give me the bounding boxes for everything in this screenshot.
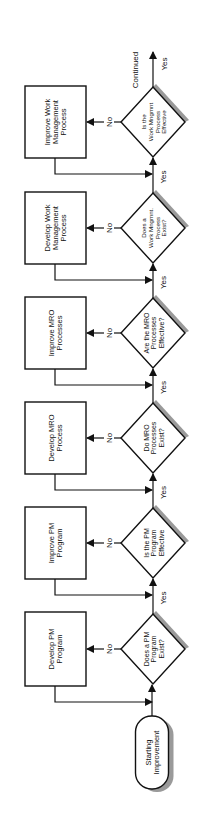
decision-label-line: Processes [150,316,157,349]
decision-label-line: Processes [150,421,157,454]
return-connector [55,264,152,280]
decision-label-line: Effective [158,530,165,557]
no-label: No [105,327,114,338]
continued-label: Continued [131,52,140,88]
start-label-line: Improvement [152,730,161,775]
action-label: Develop PMProgram [47,629,64,670]
return-connector [55,579,152,595]
yes-label: Yes [159,276,168,289]
yes-label: Yes [159,486,168,499]
flowchart: StartingImprovementDoes a PMProgramExist… [0,0,204,832]
no-label: No [105,432,114,443]
decision-label-line: Effective? [158,318,165,349]
no-label: No [105,537,114,548]
no-label: No [105,116,114,127]
action-label-line: Processes [55,315,64,350]
action-label-line: Program [55,635,64,664]
action-label-line: Process [59,214,68,241]
yes-label: Yes [159,591,168,604]
action-label-line: Process [55,424,64,451]
decision-label-line: Effective [160,110,167,134]
yes-label: Yes [159,381,168,394]
action-label-line: Program [55,529,64,558]
decision-label-line: Exist? [160,219,167,236]
return-connector [55,474,152,490]
decision-label-line: Are the MRO [143,312,150,353]
yes-label: Yes [160,57,169,70]
action-label: Improve MROProcesses [47,310,64,357]
no-label: No [105,222,114,233]
decision-label: Is the PMProgramEffective [143,528,165,558]
decision-label-line: Exist? [158,639,165,658]
return-connector [55,158,152,174]
decision-label-line: Do MRO [143,424,150,452]
action-label: Improve PMProgram [47,523,64,563]
no-label: No [105,643,114,654]
decision-label-line: Is the PM [143,528,150,558]
return-connector [55,369,152,385]
decision-label-line: Exist? [158,428,165,447]
return-connector [55,686,152,702]
flowchart-canvas: StartingImprovementDoes a PMProgramExist… [0,0,204,832]
decision-label-line: Does a PM [143,632,150,667]
yes-label: Yes [159,170,168,183]
action-label-line: Process [59,108,68,135]
decision-label: Are the MROProcessesEffective? [143,312,165,353]
